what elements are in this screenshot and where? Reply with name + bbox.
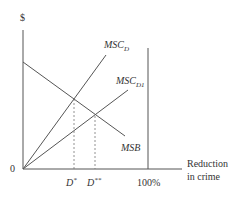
msc-d-curve bbox=[23, 55, 106, 169]
x-axis-label-line1: Reduction bbox=[187, 158, 228, 169]
x-axis-label-line2: in crime bbox=[187, 171, 221, 182]
d-star-tick: D* bbox=[65, 176, 77, 188]
msc-d-label: MSCD bbox=[103, 39, 129, 53]
msc-d1-label: MSCD1 bbox=[115, 75, 145, 89]
origin-label: 0 bbox=[10, 163, 15, 174]
msb-label: MSB bbox=[120, 142, 140, 153]
d-dstar-tick: D** bbox=[86, 176, 102, 188]
y-axis-label: $ bbox=[20, 12, 25, 23]
msc-d1-curve bbox=[23, 90, 128, 169]
hundred-percent-tick: 100% bbox=[137, 177, 160, 188]
crime-reduction-diagram: $ 0 MSCD MSCD1 MSB D* D** 100% Reduction… bbox=[0, 0, 241, 198]
